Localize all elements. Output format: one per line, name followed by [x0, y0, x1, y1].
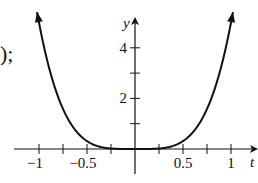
x-tick-label: −1 [27, 155, 43, 171]
x-tick-label: 0.5 [174, 155, 193, 171]
x-tick-label: 1 [227, 155, 235, 171]
x-axis-label: t [250, 154, 255, 170]
tick-labels: −1−0.50.5124 [27, 40, 235, 171]
y-tick-label: 2 [120, 90, 128, 106]
y-tick-label: 4 [120, 40, 128, 56]
y-axis-label: y [121, 15, 130, 31]
chart: −1−0.50.5124 t y [0, 0, 258, 183]
x-tick-label: −0.5 [69, 155, 96, 171]
